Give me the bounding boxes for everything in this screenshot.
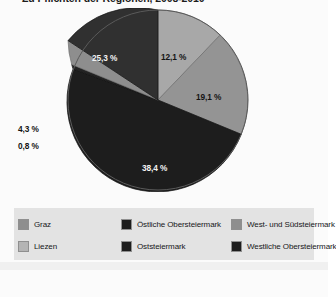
legend-item-oststeiermark[interactable]: Oststeiermark	[121, 241, 231, 252]
legend-item-west-und-suedsteiermark[interactable]: West- und Südsteiermark	[231, 219, 336, 230]
legend-label-oststeiermark: Oststeiermark	[137, 242, 186, 251]
slice-label-oststeiermark: 0,8 %	[18, 141, 39, 151]
legend-swatch-icon-oestliche-obersteiermark	[121, 219, 132, 230]
legend-label-liezen: Liezen	[34, 242, 57, 251]
legend-item-liezen[interactable]: Liezen	[18, 241, 121, 252]
slice-label-oestliche-obersteiermark: 38,4 %	[142, 163, 167, 173]
legend-label-westliche-obersteiermark: Westliche Obersteiermark	[247, 242, 336, 251]
slice-label-graz: 12,1 %	[161, 52, 186, 62]
legend-item-oestliche-obersteiermark[interactable]: Östliche Obersteiermark	[121, 219, 231, 230]
legend-swatch-icon-westliche-obersteiermark	[231, 241, 242, 252]
legend-label-graz: Graz	[34, 220, 51, 229]
scan-band	[0, 262, 328, 270]
legend-label-west-und-suedsteiermark: West- und Südsteiermark	[247, 220, 335, 229]
slice-label-westliche-obersteiermark: 25,3 %	[92, 53, 117, 63]
legend-swatch-icon-liezen	[18, 241, 29, 252]
page-title: Zu Pflichten der Regionen, 2008-2010	[22, 0, 205, 4]
pie-chart: 12,1 % 19,1 % 38,4 % 0,8 % 4,3 % 25,3 %	[0, 8, 328, 206]
legend-item-westliche-obersteiermark[interactable]: Westliche Obersteiermark	[231, 241, 336, 252]
legend-swatch-icon-oststeiermark	[121, 241, 132, 252]
legend-swatch-icon-west-und-suedsteiermark	[231, 219, 242, 230]
legend-label-oestliche-obersteiermark: Östliche Obersteiermark	[137, 220, 221, 229]
slice-label-liezen: 4,3 %	[18, 124, 39, 134]
slice-label-west-und-suedsteiermark: 19,1 %	[196, 92, 221, 102]
legend-swatch-icon-graz	[18, 219, 29, 230]
legend-item-graz[interactable]: Graz	[18, 219, 121, 230]
chart-legend: Graz Östliche Obersteiermark West- und S…	[14, 208, 314, 260]
